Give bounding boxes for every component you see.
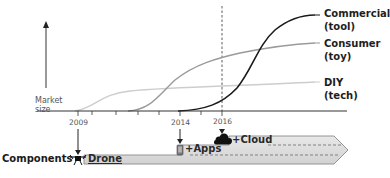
- layer-label-apps: +Apps: [185, 143, 221, 154]
- tick-label-2014: 2014: [171, 118, 190, 127]
- x-axis: [37, 111, 347, 116]
- layer-label-drone: Drone: [88, 153, 122, 164]
- components-label: Components: [2, 153, 72, 164]
- arrow-2014-to-apps: [177, 129, 183, 144]
- y-axis-label: Market size: [35, 96, 63, 114]
- arrow-2009-to-drone: [75, 129, 81, 155]
- layer-label-cloud: +Cloud: [232, 134, 272, 145]
- tick-label-2009: 2009: [69, 118, 88, 127]
- arrow-2016-to-cloud: [219, 129, 225, 134]
- tick-label-2016: 2016: [213, 117, 232, 126]
- diy-label-line2: (tech): [324, 89, 358, 102]
- y-axis-label-line1: Market: [35, 96, 63, 105]
- phone-icon: [177, 145, 183, 155]
- y-axis-arrow: [43, 21, 49, 88]
- consumer-label-line1: Consumer: [324, 37, 381, 50]
- consumer-label-line2: (toy): [324, 50, 381, 63]
- commercial-label-line1: Commercial: [324, 7, 390, 20]
- y-axis-label-line2: size: [35, 105, 63, 114]
- diy-label: DIY (tech): [324, 76, 358, 102]
- commercial-label: Commercial (tool): [324, 7, 390, 33]
- commercial-label-line2: (tool): [324, 20, 390, 33]
- commercial-curve: [178, 15, 315, 111]
- diy-curve: [75, 82, 315, 111]
- consumer-label: Consumer (toy): [324, 37, 381, 63]
- diy-label-line1: DIY: [324, 76, 358, 89]
